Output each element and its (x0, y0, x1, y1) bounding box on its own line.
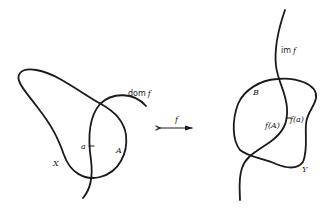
label-y: Y (302, 165, 308, 174)
label-x: X (52, 159, 59, 168)
label-dom-f: domf (128, 89, 153, 98)
label-b: B (252, 88, 259, 97)
label-a-point: a (81, 142, 86, 151)
label-f-of-a-subset: f(A) (264, 121, 280, 130)
function-mapping-diagram: X A a domf f imf B f(a) f(A) Y (0, 0, 335, 214)
label-fa: f(a) (289, 115, 304, 124)
im-f-curve (240, 10, 288, 200)
label-im-f: imf (281, 46, 298, 55)
dom-f-curve (83, 95, 146, 198)
set-x-outline (18, 69, 126, 178)
label-f-arrow: f (174, 115, 180, 124)
label-a-subset: A (115, 146, 122, 155)
mapping-arrow: f (156, 115, 193, 131)
